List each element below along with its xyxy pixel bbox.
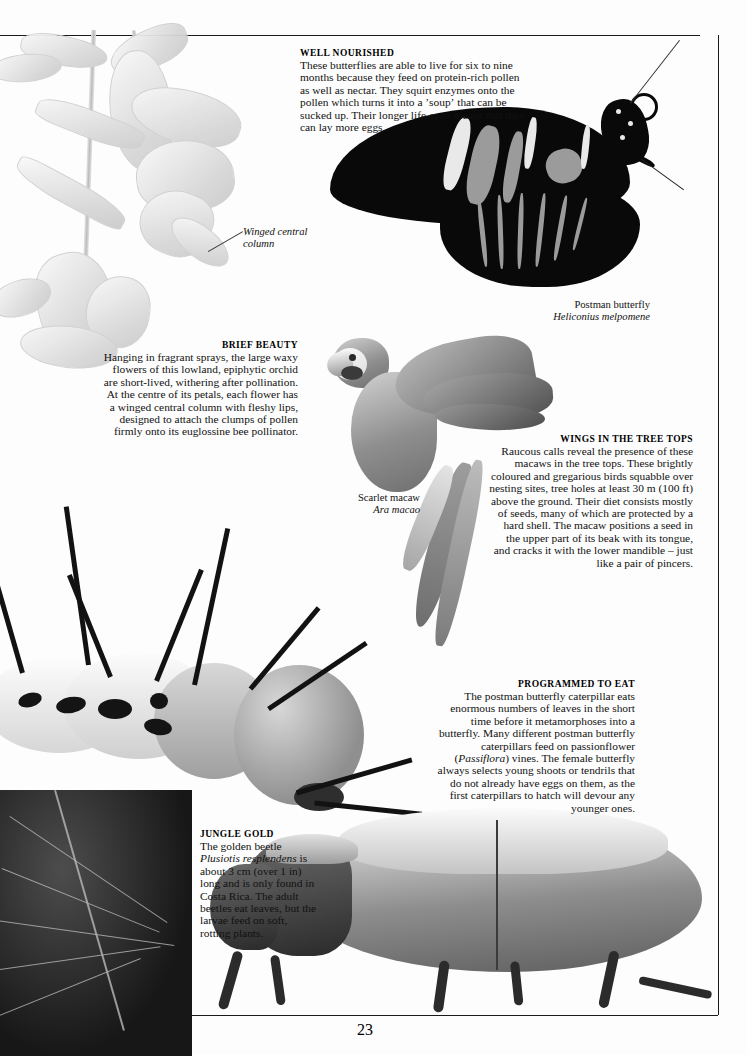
caption-scientific-name: Heliconius melpomene: [520, 311, 650, 323]
text-block-programmed-to-eat: PROGRAMMED TO EAT The postman butterfly …: [430, 679, 635, 814]
heading-wings-in-the-tree-tops: WINGS IN THE TREE TOPS: [488, 434, 693, 444]
orchid-plant-photo: [0, 30, 255, 375]
species-name-plusiotis: Plusiotis resplendens: [200, 852, 297, 864]
text-block-well-nourished: WELL NOURISHED These butterflies are abl…: [300, 48, 525, 133]
page-number: 23: [330, 1021, 400, 1039]
body-brief-beauty: Hanging in fragrant sprays, the large wa…: [102, 351, 298, 438]
bottom-border-rule: [180, 1015, 718, 1016]
heading-programmed-to-eat: PROGRAMMED TO EAT: [430, 679, 635, 689]
caption-scarlet-macaw: Scarlet macaw Ara macao: [320, 492, 420, 517]
heading-brief-beauty: BRIEF BEAUTY: [102, 340, 298, 350]
top-border-rule: [0, 35, 700, 36]
text-block-wings-in-the-tree-tops: WINGS IN THE TREE TOPS Raucous calls rev…: [488, 434, 693, 569]
caption-common-name: Scarlet macaw: [320, 492, 420, 504]
body-part-2: is about 3 cm (over 1 in) long and is on…: [200, 852, 316, 938]
leader-line-winged-central-column: [208, 231, 243, 252]
caption-line-1: Winged central: [243, 226, 333, 238]
caption-postman-butterfly: Postman butterfly Heliconius melpomene: [520, 299, 650, 324]
caption-line-2: column: [243, 238, 333, 250]
heading-jungle-gold: JUNGLE GOLD: [200, 829, 318, 839]
body-part-1: The golden beetle: [200, 840, 282, 852]
body-well-nourished: These butterflies are able to live for s…: [300, 59, 525, 133]
text-block-jungle-gold: JUNGLE GOLD The golden beetle Plusiotis …: [200, 829, 318, 939]
postman-caterpillar-photo: [0, 545, 424, 845]
caption-scientific-name: Ara macao: [320, 504, 420, 516]
caption-winged-central-column: Winged central column: [243, 226, 333, 251]
body-jungle-gold: The golden beetle Plusiotis resplendens …: [200, 840, 318, 939]
caption-common-name: Postman butterfly: [520, 299, 650, 311]
leaf-photo: [0, 790, 192, 1056]
text-block-brief-beauty: BRIEF BEAUTY Hanging in fragrant sprays,…: [102, 340, 298, 438]
species-name-passiflora: Passiflora: [458, 752, 505, 764]
right-border-rule: [718, 35, 719, 1015]
heading-well-nourished: WELL NOURISHED: [300, 48, 525, 58]
body-wings-in-the-tree-tops: Raucous calls reveal the presence of the…: [488, 445, 693, 569]
body-programmed-to-eat: The postman butterfly caterpillar eats e…: [430, 690, 635, 814]
